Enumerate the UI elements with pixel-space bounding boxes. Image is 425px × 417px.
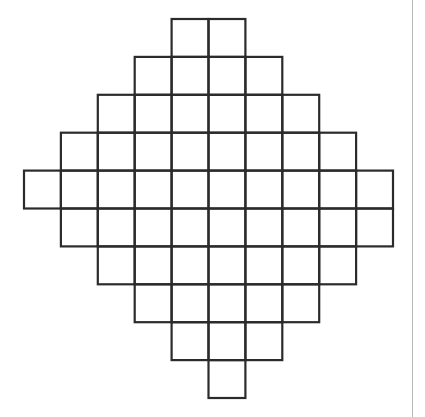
grid-row — [24, 171, 393, 209]
grid-square — [172, 19, 209, 57]
grid-square — [172, 57, 209, 95]
grid-square — [356, 209, 393, 247]
grid-square — [172, 133, 209, 171]
grid-square — [172, 95, 209, 133]
grid-square — [319, 171, 356, 209]
grid-row — [61, 209, 393, 247]
grid-square — [135, 133, 172, 171]
grid-square — [282, 95, 319, 133]
grid-row — [209, 360, 246, 398]
grid-square — [61, 209, 98, 247]
grid-square — [209, 133, 246, 171]
grid-row — [98, 246, 356, 284]
grid-square — [209, 284, 246, 322]
grid-square — [135, 209, 172, 247]
grid-square — [61, 133, 98, 171]
grid-square — [24, 171, 61, 209]
grid-square — [98, 95, 135, 133]
grid-square — [245, 322, 282, 360]
grid-square — [356, 171, 393, 209]
grid-row — [98, 95, 319, 133]
grid-square — [209, 19, 246, 57]
grid-square — [172, 209, 209, 247]
grid-row — [135, 284, 319, 322]
grid-square — [245, 171, 282, 209]
grid-square — [282, 133, 319, 171]
grid-square — [209, 246, 246, 284]
grid-square — [319, 209, 356, 247]
grid-square — [245, 284, 282, 322]
grid-square — [282, 284, 319, 322]
grid-square — [135, 171, 172, 209]
grid-square — [172, 322, 209, 360]
grid-square — [245, 246, 282, 284]
grid-square — [135, 246, 172, 284]
grid-square — [319, 246, 356, 284]
grid-square — [245, 133, 282, 171]
grid-square — [98, 133, 135, 171]
grid-square — [209, 57, 246, 95]
grid-row — [172, 19, 246, 57]
grid-square — [98, 209, 135, 247]
grid-square — [245, 57, 282, 95]
grid-square — [135, 95, 172, 133]
grid-square — [135, 57, 172, 95]
grid-square — [172, 246, 209, 284]
grid-square — [209, 209, 246, 247]
grid-square — [172, 171, 209, 209]
grid-square — [209, 171, 246, 209]
grid-square — [135, 284, 172, 322]
grid-square — [319, 133, 356, 171]
grid-square — [245, 209, 282, 247]
grid-square — [245, 95, 282, 133]
page-margin-divider — [412, 0, 413, 417]
grid-square — [282, 209, 319, 247]
diamond-grid-figure — [0, 0, 425, 417]
grid-square — [282, 171, 319, 209]
grid-square — [98, 246, 135, 284]
grid-square — [209, 322, 246, 360]
grid-square — [98, 171, 135, 209]
grid-square — [209, 95, 246, 133]
grid-row — [135, 57, 283, 95]
grid-row — [172, 322, 283, 360]
grid-square — [209, 360, 246, 398]
grid-row — [61, 133, 356, 171]
grid-square — [172, 284, 209, 322]
grid-square — [61, 171, 98, 209]
grid-square — [282, 246, 319, 284]
